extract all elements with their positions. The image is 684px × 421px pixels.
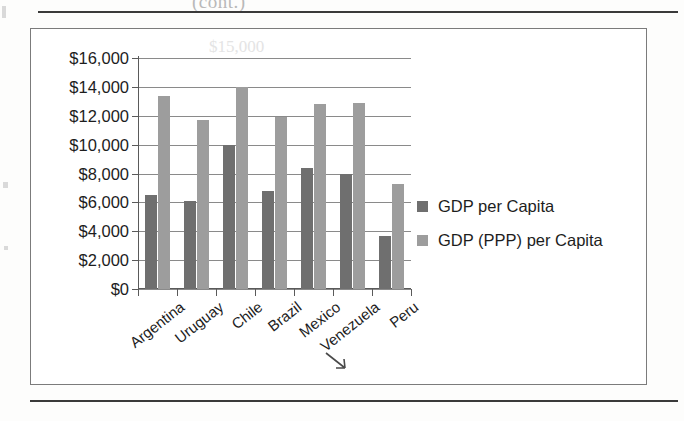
bar-group bbox=[216, 58, 255, 289]
bar bbox=[314, 104, 326, 289]
x-axis-ticks bbox=[138, 289, 411, 296]
horizontal-rule-bottom bbox=[30, 400, 678, 402]
bar bbox=[158, 96, 170, 289]
legend-swatch bbox=[417, 235, 428, 246]
x-axis-tick bbox=[216, 289, 217, 296]
bar-group bbox=[372, 58, 411, 289]
bar bbox=[145, 195, 157, 289]
x-axis-tick bbox=[333, 289, 334, 296]
bar bbox=[223, 145, 235, 289]
legend-swatch bbox=[417, 201, 428, 212]
horizontal-rule-top bbox=[38, 11, 678, 13]
x-axis-label: Chile bbox=[228, 298, 265, 332]
chart-container: $15,000 $0$2,000$4,000$6,000$8,000$10,00… bbox=[30, 28, 647, 385]
y-axis-label: $2,000 bbox=[79, 251, 129, 270]
y-axis-label: $6,000 bbox=[79, 193, 129, 212]
legend-item: GDP per Capita bbox=[417, 189, 603, 223]
x-axis-tick bbox=[294, 289, 295, 296]
bar bbox=[197, 120, 209, 289]
scanned-page: (cont.) $15,000 $0$2,000$4,000$6,000$8,0… bbox=[0, 0, 684, 421]
scan-artifact bbox=[3, 182, 8, 188]
bar bbox=[392, 184, 404, 289]
bar bbox=[353, 103, 365, 289]
bar bbox=[184, 201, 196, 289]
y-axis-label: $0 bbox=[111, 280, 129, 299]
bar bbox=[340, 174, 352, 290]
y-axis-label: $14,000 bbox=[69, 77, 129, 96]
y-axis-label: $8,000 bbox=[79, 164, 129, 183]
pencil-mark bbox=[325, 352, 351, 372]
legend-label: GDP (PPP) per Capita bbox=[438, 231, 603, 250]
scan-artifact bbox=[4, 246, 8, 250]
bar bbox=[275, 117, 287, 289]
scan-artifact bbox=[2, 6, 6, 18]
bar bbox=[379, 236, 391, 289]
ghost-text-plot: $15,000 bbox=[209, 37, 264, 57]
plot-area: $0$2,000$4,000$6,000$8,000$10,000$12,000… bbox=[138, 58, 411, 289]
bar bbox=[236, 87, 248, 289]
bar-group bbox=[138, 58, 177, 289]
x-axis-tick bbox=[372, 289, 373, 296]
bar-group bbox=[294, 58, 333, 289]
bar-group bbox=[177, 58, 216, 289]
bar bbox=[301, 168, 313, 289]
y-axis-label: $10,000 bbox=[69, 135, 129, 154]
x-axis-tick bbox=[255, 289, 256, 296]
legend-item: GDP (PPP) per Capita bbox=[417, 223, 603, 257]
chart-legend: GDP per CapitaGDP (PPP) per Capita bbox=[417, 189, 603, 257]
legend-label: GDP per Capita bbox=[438, 197, 554, 216]
bar-group bbox=[333, 58, 372, 289]
y-axis-label: $4,000 bbox=[79, 222, 129, 241]
bar bbox=[262, 191, 274, 289]
y-axis-label: $16,000 bbox=[69, 49, 129, 68]
x-axis-tick bbox=[177, 289, 178, 296]
x-axis-label: Peru bbox=[386, 298, 421, 331]
x-axis-tick bbox=[411, 289, 412, 296]
bar-group bbox=[255, 58, 294, 289]
bar-groups bbox=[138, 58, 411, 289]
x-axis-tick bbox=[138, 289, 139, 296]
y-axis-label: $12,000 bbox=[69, 106, 129, 125]
